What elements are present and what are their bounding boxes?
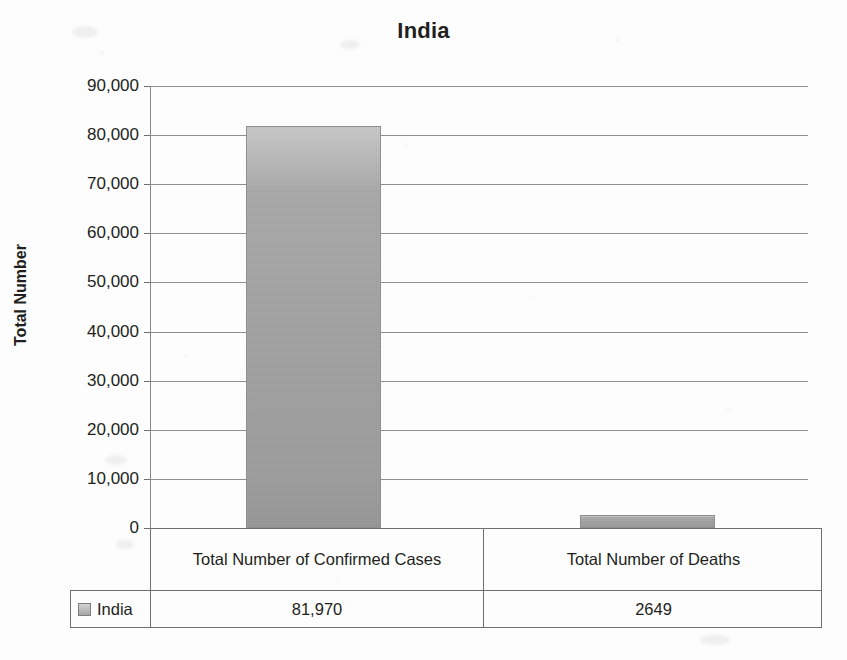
y-tick-label-10000: 10,000 [87, 469, 139, 489]
y-tick-label-20000: 20,000 [87, 420, 139, 440]
y-tick-label-30000: 30,000 [87, 371, 139, 391]
y-tick-label-60000: 60,000 [87, 223, 139, 243]
tick-60000 [144, 233, 150, 234]
y-tick-label-50000: 50,000 [87, 272, 139, 292]
y-tick-label-40000: 40,000 [87, 322, 139, 342]
legend-series-label: India [97, 599, 133, 620]
gridline-90000 [150, 86, 808, 87]
bar-confirmed-cases[interactable] [246, 126, 381, 529]
data-value-confirmed-cases: 81,970 [151, 591, 484, 627]
legend-entry[interactable]: India [71, 591, 151, 627]
plot-area: 90,000 80,000 70,000 60,000 50,000 40,00… [150, 86, 808, 528]
tick-20000 [144, 430, 150, 431]
data-value-deaths: 2649 [484, 591, 823, 627]
y-tick-label-90000: 90,000 [87, 76, 139, 96]
y-axis-title: Total Number [12, 195, 30, 395]
data-table-row: India 81,970 2649 [70, 590, 822, 628]
tick-70000 [144, 184, 150, 185]
tick-80000 [144, 135, 150, 136]
tick-40000 [144, 332, 150, 333]
tick-90000 [144, 86, 150, 87]
y-tick-label-80000: 80,000 [87, 125, 139, 145]
category-label-row: Total Number of Confirmed Cases Total Nu… [150, 528, 822, 590]
tick-30000 [144, 381, 150, 382]
tick-50000 [144, 282, 150, 283]
chart-data-table: Total Number of Confirmed Cases Total Nu… [70, 528, 822, 628]
bar-deaths[interactable] [580, 515, 715, 528]
category-label-confirmed-cases: Total Number of Confirmed Cases [151, 529, 484, 590]
y-tick-label-70000: 70,000 [87, 174, 139, 194]
category-label-deaths: Total Number of Deaths [484, 529, 823, 590]
tick-10000 [144, 479, 150, 480]
legend-swatch-icon [78, 603, 91, 616]
chart-title: India [0, 18, 847, 44]
